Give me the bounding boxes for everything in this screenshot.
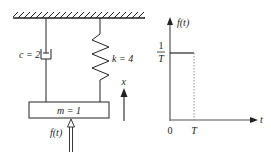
x-axis-label: t <box>260 114 263 125</box>
force-label: f(t) <box>50 127 63 139</box>
damper-label: c = 2 <box>19 49 40 60</box>
displacement-label: x <box>121 76 127 87</box>
pulse-end-label: T <box>191 125 198 136</box>
force-arrow-icon <box>68 119 75 152</box>
ceiling-support <box>13 12 145 18</box>
spring-label: k = 4 <box>112 53 133 64</box>
damper <box>41 18 51 102</box>
ceiling-hatch <box>13 12 145 18</box>
origin-label: 0 <box>168 125 173 136</box>
mass-label: m = 1 <box>57 105 81 116</box>
force-graph <box>167 17 258 123</box>
y-axis-label: f(t) <box>177 17 190 29</box>
y-axis-arrow-icon <box>167 17 173 25</box>
displacement-arrow-icon <box>121 88 128 121</box>
spring <box>92 18 109 102</box>
level-denominator: T <box>158 53 165 64</box>
x-axis-arrow-icon <box>250 117 258 123</box>
level-numerator: 1 <box>159 40 164 51</box>
diagram-canvas: c = 2 k = 4 m = 1 f(t) x f(t) t 1 T 0 T <box>0 0 271 155</box>
